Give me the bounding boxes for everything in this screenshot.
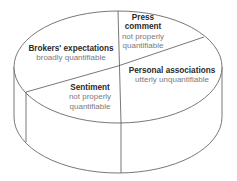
segment-title-line1: Press [118,13,168,22]
segment-subtitle-line1: not properly [118,32,168,41]
pie-cylinder-diagram: Brokers' expectations broadly quantifiab… [0,0,237,181]
segment-brokers-expectations: Brokers' expectations broadly quantifiab… [24,44,118,63]
segment-subtitle: utterly unquantifiable [124,75,220,84]
segment-subtitle: broadly quantifiable [24,53,118,62]
segment-title-line2: comment [118,22,168,31]
segment-personal-associations: Personal associations utterly unquantifi… [124,66,220,85]
segment-title: Sentiment [62,83,118,92]
segment-sentiment: Sentiment not properly quantifiable [62,83,118,111]
segment-title: Brokers' expectations [24,44,118,53]
segment-title: Personal associations [124,66,220,75]
segment-subtitle-line1: not properly [62,92,118,101]
segment-subtitle-line2: quantifiable [62,102,118,111]
segment-press-comment: Press comment not properly quantifiable [118,13,168,50]
segment-subtitle-line2: quantifiable [118,41,168,50]
